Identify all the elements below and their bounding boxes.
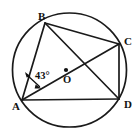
center-point-dot [64,68,68,72]
vertex-label-c: C [124,35,132,47]
vertex-label-a: A [12,100,20,112]
geometry-canvas: A B C D O 43° [0,0,140,140]
geometry-figure: A B C D O 43° [0,0,140,140]
angle-measure-label: 43° [35,70,50,81]
vertex-label-b: B [38,10,46,22]
diagonal-bd [45,23,119,99]
center-label-o: O [63,74,71,85]
segment-ad [22,99,119,100]
vertex-label-d: D [124,98,132,110]
